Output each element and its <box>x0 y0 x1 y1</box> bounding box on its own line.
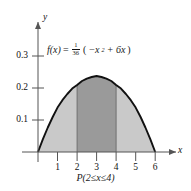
formula-close-paren: ) <box>127 44 130 55</box>
y-axis-arrowhead <box>35 22 41 29</box>
y-axis-label: y <box>43 13 47 23</box>
formula-plus-term: + 6x <box>107 44 126 55</box>
y-tick-label-0.2: 0.2 <box>2 83 28 93</box>
shaded-area-interval <box>77 76 116 152</box>
formula-fraction: 1 36 <box>72 42 81 57</box>
x-axis-arrowhead <box>169 149 176 155</box>
formula-neg-x: −x <box>88 44 99 55</box>
caption-suffix: 4) <box>106 172 114 183</box>
figure-caption: P(2≤x≤4) <box>0 172 191 183</box>
caption-prefix: P(2 <box>76 172 90 183</box>
formula-equals: = <box>63 44 69 55</box>
function-formula-annotation: f(x) = 1 36 ( −x 2 + 6x ) <box>47 42 131 57</box>
formula-denominator: 36 <box>72 50 81 57</box>
formula-open-paren: ( <box>83 44 86 55</box>
x-axis-label: x <box>178 146 182 156</box>
y-tick-label-0.1: 0.1 <box>2 115 28 125</box>
formula-exponent: 2 <box>102 46 105 53</box>
formula-numerator: 1 <box>73 42 78 49</box>
y-tick-label-0.3: 0.3 <box>2 51 28 61</box>
probability-density-figure: 0.3 0.2 0.1 1 2 3 4 5 6 y x f(x) = 1 36 … <box>0 0 191 191</box>
formula-lhs: f(x) <box>47 44 61 55</box>
